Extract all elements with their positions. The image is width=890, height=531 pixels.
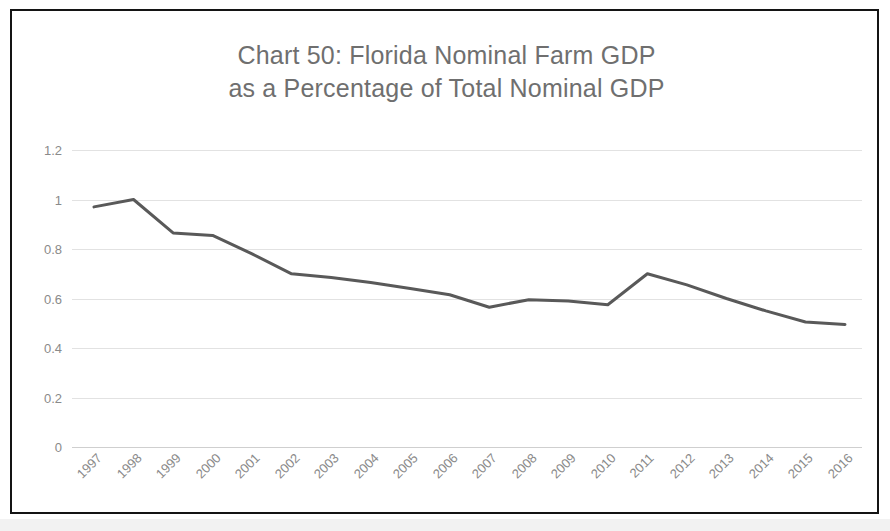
series-polyline bbox=[94, 200, 845, 325]
x-tick-label-2001: 2001 bbox=[233, 451, 263, 481]
x-tick-label-2011: 2011 bbox=[628, 451, 658, 481]
y-tick-label-1.2: 1.2 bbox=[16, 144, 62, 157]
chart-page: Chart 50: Florida Nominal Farm GDP as a … bbox=[0, 0, 890, 531]
chart-title-line-2: as a Percentage of Total Nominal GDP bbox=[12, 72, 881, 105]
y-axis-tick-labels: 1.210.80.60.40.20 bbox=[16, 142, 66, 448]
x-tick-label-2000: 2000 bbox=[193, 451, 223, 481]
x-tick-label-1999: 1999 bbox=[154, 451, 184, 481]
y-tick-label-0: 0 bbox=[16, 441, 62, 454]
x-tick-label-2002: 2002 bbox=[272, 451, 302, 481]
page-edge-shadow bbox=[0, 519, 890, 531]
plot-area bbox=[72, 142, 862, 448]
y-tick-label-0.2: 0.2 bbox=[16, 392, 62, 405]
x-tick-label-1998: 1998 bbox=[114, 451, 144, 481]
x-axis-tick-labels: 1997199819992000200120022003200420052006… bbox=[72, 451, 872, 521]
x-tick-label-2004: 2004 bbox=[351, 451, 381, 481]
y-tick-label-0.8: 0.8 bbox=[16, 243, 62, 256]
data-series-line bbox=[72, 142, 862, 448]
x-tick-label-2010: 2010 bbox=[588, 451, 618, 481]
x-tick-label-2009: 2009 bbox=[549, 451, 579, 481]
x-tick-label-2008: 2008 bbox=[509, 451, 539, 481]
chart-title: Chart 50: Florida Nominal Farm GDP as a … bbox=[12, 39, 881, 105]
x-tick-label-2015: 2015 bbox=[786, 451, 816, 481]
x-tick-label-2012: 2012 bbox=[667, 451, 697, 481]
x-tick-label-2007: 2007 bbox=[470, 451, 500, 481]
chart-frame: Chart 50: Florida Nominal Farm GDP as a … bbox=[10, 9, 879, 514]
x-tick-label-2013: 2013 bbox=[707, 451, 737, 481]
x-tick-label-2003: 2003 bbox=[312, 451, 342, 481]
x-tick-label-2005: 2005 bbox=[391, 451, 421, 481]
x-tick-label-2014: 2014 bbox=[746, 451, 776, 481]
x-tick-label-2006: 2006 bbox=[430, 451, 460, 481]
y-tick-label-0.6: 0.6 bbox=[16, 293, 62, 306]
chart-title-line-1: Chart 50: Florida Nominal Farm GDP bbox=[12, 39, 881, 72]
y-tick-label-1: 1 bbox=[16, 194, 62, 207]
x-tick-label-2016: 2016 bbox=[825, 451, 855, 481]
y-tick-label-0.4: 0.4 bbox=[16, 342, 62, 355]
x-tick-label-1997: 1997 bbox=[74, 451, 104, 481]
